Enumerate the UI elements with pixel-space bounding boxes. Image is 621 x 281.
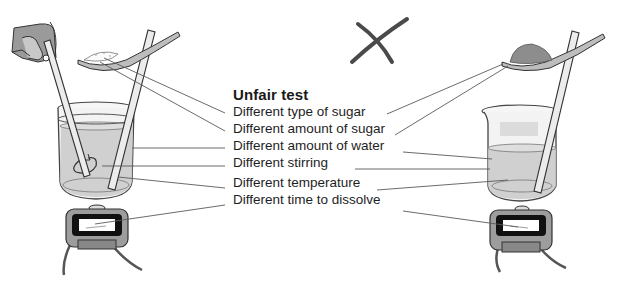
label-stirring: Different stirring — [233, 155, 328, 171]
right-setup — [482, 31, 605, 272]
label-amount-of-water: Different amount of water — [233, 138, 384, 154]
left-setup — [12, 22, 180, 275]
right-spoon-brown-sugar — [502, 34, 605, 71]
label-temperature: Different temperature — [233, 175, 360, 191]
figure-title: Unfair test — [233, 86, 308, 103]
label-amount-of-sugar: Different amount of sugar — [233, 121, 385, 137]
label-time-to-dissolve: Different time to dissolve — [233, 192, 381, 208]
left-stopwatch-icon — [64, 205, 142, 275]
cross-mark-icon — [352, 19, 407, 62]
label-type-of-sugar: Different type of sugar — [233, 104, 366, 120]
left-spoon-white-sugar — [78, 32, 180, 71]
right-stopwatch-icon — [490, 206, 566, 272]
